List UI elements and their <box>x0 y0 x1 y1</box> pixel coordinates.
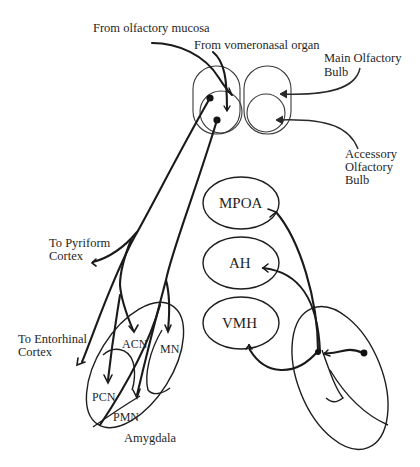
label-from-olfactory-mucosa: From olfactory mucosa <box>93 21 210 35</box>
right-accessory-olfactory-bulb <box>247 94 285 132</box>
projection-to-mpoa <box>276 212 318 351</box>
accessory-to-mn <box>166 280 169 330</box>
label-accessory-olfactory-bulb: Accessory Olfactory Bulb <box>345 147 400 187</box>
projection-to-vmh <box>249 345 318 370</box>
label-vmh: VMH <box>222 315 257 331</box>
main-bulb-to-cortical-nuclei <box>120 240 133 330</box>
incoming-fibers <box>152 43 232 124</box>
left-accessory-olfactory-bulb <box>200 91 242 133</box>
label-ah: AH <box>229 255 251 271</box>
label-from-vomeronasal-organ: From vomeronasal organ <box>194 38 320 52</box>
right-main-olfactory-bulb <box>244 66 291 134</box>
main-bulb-tract <box>82 98 210 362</box>
right-amygdala-dot-left <box>315 349 321 355</box>
label-pmn: PMN <box>113 410 139 424</box>
right-amygdala <box>273 293 407 464</box>
label-pcn: PCN <box>92 390 116 404</box>
right-amygdala-dot-right <box>361 350 368 357</box>
right-amygdala-inner-division <box>322 350 343 402</box>
hypothalamic-nuclei: MPOA AH VMH <box>203 177 279 349</box>
label-to-entorhinal-cortex: To Entorhinal Cortex <box>18 332 90 359</box>
label-mn: MN <box>160 342 180 356</box>
line-to-pcn <box>108 295 120 380</box>
figure-caption-clipped <box>0 458 420 467</box>
olfactory-pathway-diagram: From olfactory mucosa From vomeronasal o… <box>0 0 420 467</box>
label-acn: ACN <box>122 337 148 351</box>
right-amygdala-lower-line <box>330 370 388 425</box>
right-amygdala-efferent <box>325 350 363 353</box>
accessory-bulb-pointer-arrow <box>277 120 358 149</box>
right-amygdala-outline <box>273 293 407 464</box>
label-main-olfactory-bulb: Main Olfactory Bulb <box>324 51 405 79</box>
label-amygdala: Amygdala <box>124 431 177 445</box>
amygdala-hypothalamus-projections <box>246 209 367 370</box>
label-mpoa: MPOA <box>219 195 263 211</box>
